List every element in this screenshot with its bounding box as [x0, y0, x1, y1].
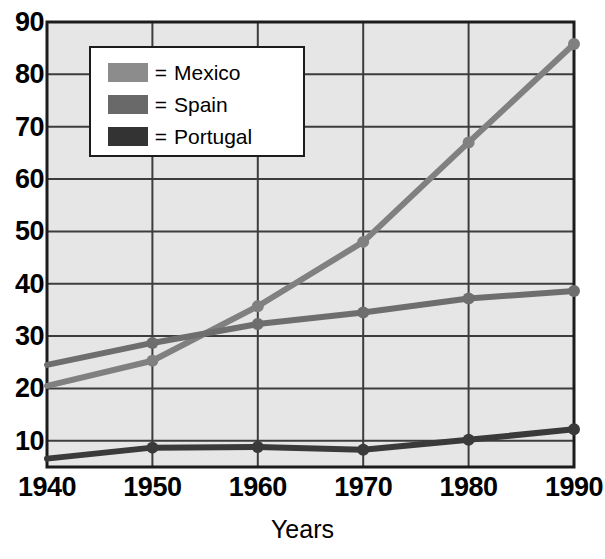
data-point — [357, 444, 369, 456]
data-point — [568, 285, 580, 297]
x-axis-title: Years — [0, 517, 605, 542]
legend-equals-sign: = — [148, 94, 174, 115]
data-point — [252, 300, 264, 312]
y-tick-label: 30 — [2, 323, 44, 350]
legend-swatch — [108, 95, 148, 114]
legend-equals-sign: = — [148, 126, 174, 147]
y-tick-label: 90 — [2, 9, 44, 36]
y-tick-label: 40 — [2, 270, 44, 297]
data-point — [252, 318, 264, 330]
y-tick-label: 20 — [2, 375, 44, 402]
x-tick-label: 1960 — [198, 474, 318, 501]
data-point — [146, 337, 158, 349]
legend-swatch — [108, 63, 148, 82]
data-point — [568, 423, 580, 435]
legend-label: Spain — [174, 94, 228, 115]
y-tick-label: 80 — [2, 61, 44, 88]
data-point — [357, 236, 369, 248]
legend: =Mexico=Spain=Portugal — [89, 46, 305, 157]
legend-item: =Portugal — [91, 120, 303, 152]
y-tick-label: 50 — [2, 218, 44, 245]
legend-item: =Mexico — [91, 56, 303, 88]
legend-swatch — [108, 127, 148, 146]
x-tick-label: 1990 — [514, 474, 605, 501]
data-point — [463, 434, 475, 446]
y-tick-label: 60 — [2, 166, 44, 193]
x-tick-label: 1940 — [0, 474, 107, 501]
data-point — [146, 442, 158, 454]
data-point — [463, 136, 475, 148]
x-tick-label: 1950 — [92, 474, 212, 501]
y-tick-label: 70 — [2, 113, 44, 140]
data-point — [463, 292, 475, 304]
y-tick-label: 10 — [2, 427, 44, 454]
data-point — [146, 355, 158, 367]
x-tick-label: 1970 — [303, 474, 423, 501]
legend-item: =Spain — [91, 88, 303, 120]
data-point — [252, 441, 264, 453]
data-point — [568, 38, 580, 50]
legend-label: Mexico — [174, 62, 241, 83]
x-tick-label: 1980 — [409, 474, 529, 501]
line-chart: 908070605040302010 194019501960197019801… — [0, 0, 605, 559]
legend-equals-sign: = — [148, 62, 174, 83]
data-point — [357, 307, 369, 319]
legend-label: Portugal — [174, 126, 252, 147]
